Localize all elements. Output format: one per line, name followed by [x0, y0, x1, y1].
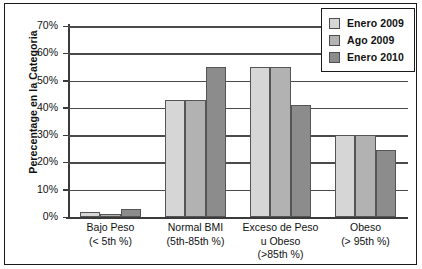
y-axis-tick-mark [63, 26, 68, 28]
legend-label: Enero 2009 [347, 17, 404, 29]
x-axis-label-line: u Obeso [238, 235, 323, 249]
bar [121, 209, 142, 217]
legend-item: Ago 2009 [329, 32, 404, 48]
bar [355, 135, 376, 217]
y-axis-tick-label: 40% [37, 101, 58, 113]
gridline [68, 81, 408, 83]
x-axis-label-line: (< 5th %) [68, 235, 153, 249]
x-axis-label-line: Bajo Peso [68, 221, 153, 235]
bar [270, 67, 291, 217]
y-axis-tick-label: 50% [37, 74, 58, 86]
x-axis-label-line: Exceso de Peso [238, 221, 323, 235]
x-axis-label-line: Normal BMI [153, 221, 238, 235]
y-axis-tick-mark [63, 217, 68, 219]
bar-chart-figure: Perecentage en la Categoria 70%60%50%40%… [0, 0, 422, 269]
bar [291, 105, 312, 217]
y-axis-tick-mark [63, 189, 68, 191]
legend-item: Enero 2010 [329, 49, 404, 65]
bar [250, 67, 271, 217]
x-axis-category-label: Normal BMI(5th-85th %) [153, 221, 238, 248]
y-axis-tick-mark [63, 135, 68, 137]
bar [80, 212, 101, 217]
legend-swatch-icon [329, 35, 340, 46]
legend-item: Enero 2009 [329, 15, 404, 31]
x-axis-label-line: Obeso [323, 221, 408, 235]
legend-swatch-icon [329, 18, 340, 29]
x-axis-category-label: Obeso(> 95th %) [323, 221, 408, 248]
y-axis-tick-label: 70% [37, 19, 58, 31]
legend: Enero 2009Ago 2009Enero 2010 [321, 8, 415, 72]
bar [376, 150, 397, 217]
y-axis-tick-label: 0% [43, 210, 58, 222]
x-axis-line [66, 217, 408, 219]
y-axis-tick-mark [63, 162, 68, 164]
y-axis-tick-mark [63, 107, 68, 109]
bar [100, 214, 121, 217]
x-axis-label-line: (>85th %) [238, 248, 323, 262]
x-axis-label-line: (> 95th %) [323, 235, 408, 249]
bar [165, 100, 186, 217]
x-axis-category-label: Bajo Peso(< 5th %) [68, 221, 153, 248]
gridline [68, 108, 408, 110]
x-axis-category-label: Exceso de Pesou Obeso(>85th %) [238, 221, 323, 262]
y-axis-tick-mark [63, 80, 68, 82]
y-axis-tick-label: 10% [37, 183, 58, 195]
y-axis-tick-label: 60% [37, 46, 58, 58]
legend-label: Enero 2010 [347, 51, 404, 63]
y-axis-tick-mark [63, 53, 68, 55]
y-axis-tick-label: 20% [37, 155, 58, 167]
y-axis-tick-labels: 70%60%50%40%30%20%10%0% [0, 0, 58, 269]
legend-label: Ago 2009 [347, 34, 395, 46]
x-axis-label-line: (5th-85th %) [153, 235, 238, 249]
x-axis-category-labels: Bajo Peso(< 5th %)Normal BMI(5th-85th %)… [68, 221, 408, 267]
bar [185, 100, 206, 217]
bar [206, 67, 227, 217]
legend-swatch-icon [329, 52, 340, 63]
y-axis-tick-label: 30% [37, 128, 58, 140]
bar [335, 135, 356, 217]
